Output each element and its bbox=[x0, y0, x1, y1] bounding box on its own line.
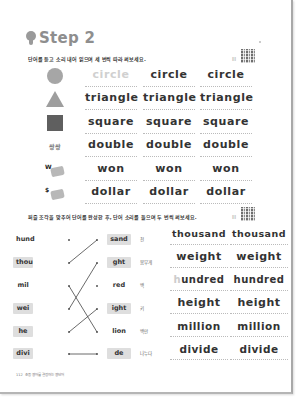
circle-shape-icon bbox=[44, 65, 66, 87]
answer-word[interactable]: divide bbox=[230, 340, 288, 360]
workbook-page: Step 2 단어를 듣고 소리 내어 읽으며 세 번씩 따라 써보세요. ||… bbox=[0, 0, 293, 394]
trace-word[interactable]: circle bbox=[85, 65, 137, 87]
connector-dot[interactable] bbox=[68, 331, 70, 333]
write-word[interactable]: won bbox=[200, 159, 252, 181]
connector-dot[interactable] bbox=[96, 331, 98, 333]
puzzle-piece-left[interactable]: he bbox=[13, 326, 33, 337]
korean-meaning: 백만 bbox=[140, 328, 148, 334]
write-word[interactable]: square bbox=[85, 112, 137, 134]
puzzle-piece-left[interactable]: hund bbox=[13, 234, 33, 245]
won-money-icon: W bbox=[44, 159, 66, 181]
answer-word[interactable]: hundred bbox=[170, 271, 228, 291]
word-row-square: square square square bbox=[0, 112, 293, 134]
write-word[interactable]: triangle bbox=[143, 88, 195, 110]
write-word[interactable]: double bbox=[143, 135, 195, 157]
answer-word[interactable]: height bbox=[230, 294, 288, 314]
footer-text: 초등 영어를 결정하는 영단어 bbox=[25, 373, 64, 377]
answer-word[interactable]: hundred bbox=[230, 271, 288, 291]
puzzle-piece-right[interactable]: de bbox=[107, 348, 131, 359]
write-word[interactable]: won bbox=[85, 159, 137, 181]
answer-word[interactable]: thousand bbox=[230, 225, 288, 245]
korean-meaning: 천 bbox=[140, 236, 144, 242]
connector-dot[interactable] bbox=[96, 308, 98, 310]
puzzle-piece-right[interactable]: sand bbox=[107, 234, 131, 245]
dollar-money-icon: $ bbox=[44, 182, 66, 204]
word-row-circle: circle circle circle bbox=[0, 65, 293, 87]
double-picture-icon: 쌍쌍 bbox=[44, 135, 66, 157]
word-row-double: 쌍쌍 double double double bbox=[0, 135, 293, 157]
puzzle-piece-left[interactable]: mil bbox=[13, 280, 33, 291]
word-row-won: W won won won bbox=[0, 159, 293, 181]
connector-dot[interactable] bbox=[68, 262, 70, 264]
section1-instruction: 단어를 듣고 소리 내어 읽으며 세 번씩 따라 써보세요. bbox=[28, 55, 146, 62]
qr-code-icon[interactable] bbox=[241, 207, 255, 221]
write-word[interactable]: square bbox=[143, 112, 195, 134]
answer-word[interactable]: weight bbox=[170, 248, 228, 268]
word-row-dollar: $ dollar dollar dollar bbox=[0, 182, 293, 204]
qr-code-icon[interactable] bbox=[241, 49, 255, 63]
korean-meaning: 나누다 bbox=[140, 350, 152, 356]
write-word[interactable]: triangle bbox=[85, 88, 137, 110]
answer-word[interactable]: weight bbox=[230, 248, 288, 268]
lightbulb-icon bbox=[26, 31, 36, 45]
connector-dot[interactable] bbox=[68, 239, 70, 241]
puzzle-piece-right[interactable]: ight bbox=[107, 303, 131, 314]
puzzle-piece-left[interactable]: divi bbox=[13, 348, 33, 359]
korean-meaning: 몸무게 bbox=[140, 259, 152, 265]
write-word[interactable]: circle bbox=[143, 65, 195, 87]
answer-word[interactable]: million bbox=[230, 317, 288, 337]
write-word[interactable]: dollar bbox=[85, 182, 137, 204]
connector-dot[interactable] bbox=[68, 353, 70, 355]
answer-word[interactable]: thousand bbox=[170, 225, 228, 245]
step-header: Step 2 bbox=[26, 29, 95, 47]
write-word[interactable]: dollar bbox=[200, 182, 252, 204]
connector-dot[interactable] bbox=[96, 285, 98, 287]
audio-track-icon: ||| bbox=[232, 56, 236, 61]
square-shape-icon bbox=[44, 112, 66, 134]
puzzle-piece-right[interactable]: lion bbox=[107, 326, 131, 337]
page-number: 112 bbox=[16, 373, 23, 377]
puzzle-piece-left[interactable]: thou bbox=[13, 257, 33, 268]
connector-dot[interactable] bbox=[96, 262, 98, 264]
audio-track-icon: ||| bbox=[232, 214, 236, 219]
answer-word[interactable]: divide bbox=[170, 340, 228, 360]
write-word[interactable]: square bbox=[200, 112, 252, 134]
write-word[interactable]: double bbox=[85, 135, 137, 157]
puzzle-piece-left[interactable]: wei bbox=[13, 303, 33, 314]
answer-word[interactable]: height bbox=[170, 294, 228, 314]
connector-dot[interactable] bbox=[96, 239, 98, 241]
connector-dot[interactable] bbox=[68, 285, 70, 287]
puzzle-piece-right[interactable]: ght bbox=[107, 257, 131, 268]
write-word[interactable]: won bbox=[143, 159, 195, 181]
word-row-triangle: triangle triangle triangle bbox=[0, 88, 293, 110]
answer-word[interactable]: million bbox=[170, 317, 228, 337]
decorative-dot bbox=[259, 41, 261, 43]
connector-dot[interactable] bbox=[96, 353, 98, 355]
section2-instruction: 퍼즐 조각을 맞추어 단어를 완성한 후, 단어 소리를 들으며 두 번씩 써보… bbox=[28, 213, 197, 220]
write-word[interactable]: double bbox=[200, 135, 252, 157]
korean-meaning: 백 bbox=[140, 282, 144, 288]
puzzle-piece-right[interactable]: red bbox=[107, 280, 131, 291]
write-word[interactable]: circle bbox=[200, 65, 252, 87]
page-footer: 112 초등 영어를 결정하는 영단어 bbox=[16, 372, 64, 377]
write-word[interactable]: dollar bbox=[143, 182, 195, 204]
connector-dot[interactable] bbox=[68, 308, 70, 310]
write-word[interactable]: triangle bbox=[200, 88, 252, 110]
korean-meaning: 키 bbox=[140, 305, 144, 311]
step-title: Step 2 bbox=[39, 29, 95, 47]
triangle-shape-icon bbox=[44, 88, 66, 110]
